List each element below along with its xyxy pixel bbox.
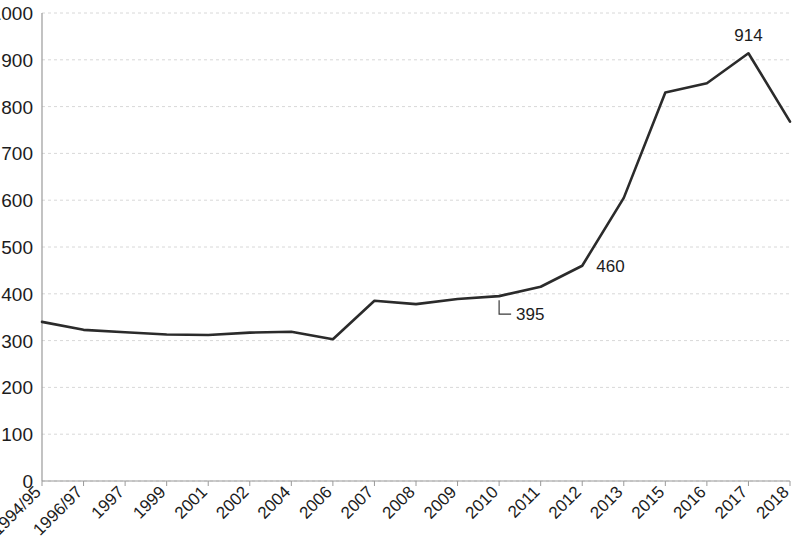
x-axis-tick-label: 2016 [670,482,710,522]
x-axis-tick-label: 2015 [628,482,668,522]
chart-canvas: 01002003004005006007008009001000 1994/95… [0,0,801,543]
y-axis-tick-label: 400 [1,284,33,305]
y-axis-tick-label: 900 [1,50,33,71]
gridlines-group [42,13,790,481]
x-axis-tick-label: 2002 [212,482,252,522]
x-axis-tick-label: 2013 [586,482,626,522]
y-axis-tick-label: 1000 [0,3,33,24]
x-axis-tick-label: 2006 [296,482,336,522]
y-axis-tick-label: 200 [1,377,33,398]
y-axis-tick-label: 800 [1,97,33,118]
data-point-label: 395 [516,305,544,324]
x-axis-tick-label: 2008 [379,482,419,522]
y-axis-tick-label: 100 [1,424,33,445]
data-point-label: 460 [596,257,624,276]
label-leader-line [499,300,511,314]
x-axis-tick-label: 2009 [420,482,460,522]
x-axis-tick-label: 2007 [337,482,377,522]
line-chart: 01002003004005006007008009001000 1994/95… [0,0,801,543]
x-axis-tick-label: 2018 [753,482,793,522]
x-axis-tick-label: 2012 [545,482,585,522]
x-axis-tick-label: 2004 [254,482,294,522]
data-point-label: 914 [734,26,762,45]
y-axis-tick-label: 700 [1,143,33,164]
y-axis-tick-label: 600 [1,190,33,211]
x-axis-tick-label: 2011 [504,482,543,521]
y-axis-tick-labels: 01002003004005006007008009001000 [0,3,33,492]
data-series-group [42,53,790,339]
x-axis-tick-label: 2010 [462,482,502,522]
x-axis-tick-label: 2001 [171,482,211,522]
x-axis-tick-label: 2017 [711,482,751,522]
x-axis-tick-labels: 1994/951996/9719971999200120022004200620… [0,482,793,539]
y-axis-tick-label: 500 [1,237,33,258]
y-axis-tick-label: 300 [1,331,33,352]
x-axis-tick-label: 1999 [129,482,169,522]
series-line [42,53,790,339]
x-axis-tick-label: 1997 [88,482,128,522]
